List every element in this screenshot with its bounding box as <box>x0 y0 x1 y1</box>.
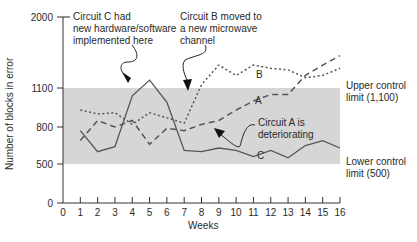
annotation-line: limit (1,100) <box>346 92 406 104</box>
x-tick-label: 8 <box>199 207 205 218</box>
x-tick-label: 6 <box>164 207 170 218</box>
arrow-circuit-c <box>121 45 137 76</box>
series-tag-c: C <box>257 150 264 162</box>
x-axis-label: Weeks <box>188 220 218 232</box>
annotation-line: deteriorating <box>258 129 314 141</box>
x-tick-label: 13 <box>283 207 295 218</box>
y-ticks: 050080011002000 <box>31 12 63 209</box>
annotation-line: implemented here <box>73 35 176 47</box>
y-tick-label: 2000 <box>31 12 54 23</box>
annotation-line: Lower control <box>346 156 406 168</box>
x-tick-label: 2 <box>95 207 101 218</box>
x-tick-label: 15 <box>317 207 329 218</box>
y-axis-label: Number of blocks in error <box>4 58 15 170</box>
annotation-circuit-a: Circuit A is deteriorating <box>258 117 314 141</box>
y-tick-label: 500 <box>36 159 53 170</box>
x-tick-label: 3 <box>112 207 118 218</box>
x-tick-label: 5 <box>147 207 153 218</box>
y-tick-label: 0 <box>47 198 53 209</box>
annotation-line: channel <box>180 35 262 47</box>
annotation-line: Circuit B moved to <box>180 11 262 23</box>
annotation-line: Circuit A is <box>258 117 314 129</box>
annotation-line: a new microwave <box>180 23 262 35</box>
annotation-line: Circuit C had <box>73 11 176 23</box>
lower-control-limit-label: Lower control limit (500) <box>346 156 406 180</box>
annotation-line: limit (500) <box>346 168 406 180</box>
annotation-line: Upper control <box>346 80 406 92</box>
y-tick-label: 1100 <box>31 83 53 94</box>
series-tag-b: B <box>255 69 264 81</box>
arrow-circuit-b <box>183 45 206 82</box>
series-tag-a: A <box>255 95 262 107</box>
x-ticks: 012345678910111213141516 <box>60 197 346 218</box>
y-tick-label: 800 <box>36 122 53 133</box>
x-tick-label: 9 <box>216 207 222 218</box>
x-tick-label: 16 <box>334 207 346 218</box>
x-tick-label: 11 <box>248 207 259 218</box>
annotation-line: new hardware/software <box>73 23 176 35</box>
x-tick-label: 12 <box>265 207 277 218</box>
x-tick-label: 7 <box>181 207 187 218</box>
upper-control-limit-label: Upper control limit (1,100) <box>346 80 406 104</box>
x-tick-label: 4 <box>129 207 135 218</box>
x-tick-label: 14 <box>300 207 312 218</box>
x-tick-label: 10 <box>231 207 243 218</box>
annotation-circuit-b: Circuit B moved to a new microwave chann… <box>180 11 262 47</box>
x-tick-label: 0 <box>60 207 66 218</box>
x-tick-label: 1 <box>78 207 84 218</box>
annotation-circuit-c: Circuit C had new hardware/software impl… <box>73 11 176 47</box>
arrowhead-icon <box>122 72 131 83</box>
